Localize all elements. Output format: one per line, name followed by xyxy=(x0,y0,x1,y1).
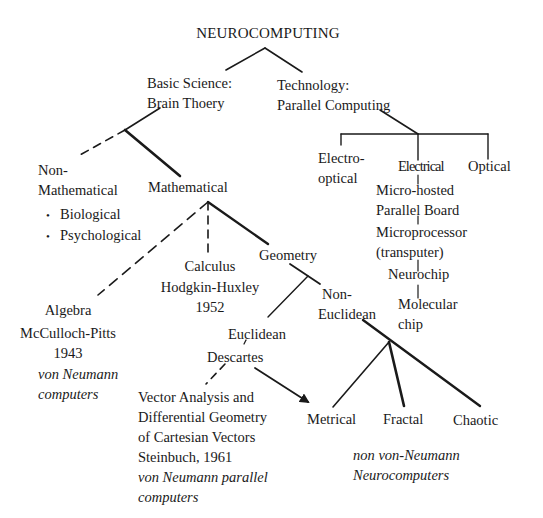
calculus-line1: Calculus xyxy=(161,256,259,276)
science-subtitle: Brain Thoery xyxy=(147,93,232,113)
algebra-note-line2: computers xyxy=(38,384,118,404)
non-euclidean-node: Non- Euclidean xyxy=(318,284,376,324)
neurocomputers-note: non von-Neumann Neurocomputers xyxy=(353,445,460,485)
bullet-psychological: Psychological xyxy=(46,225,141,246)
algebra-line1: Algebra xyxy=(20,300,116,320)
algebra-node: Algebra McCulloch-Pitts 1943 xyxy=(20,300,116,363)
calculus-node: Calculus Hodgkin-Huxley 1952 xyxy=(161,256,259,317)
root-node: NEUROCOMPUTING xyxy=(196,23,340,43)
neuro-note-line2: Neurocomputers xyxy=(353,465,460,485)
algebra-line3: 1943 xyxy=(20,343,116,363)
microprocessor-line1: Microprocessor xyxy=(376,222,467,242)
chaotic-node: Chaotic xyxy=(453,410,498,430)
edge-geometry-stem xyxy=(290,264,320,284)
edge-science-math xyxy=(125,130,180,176)
edge-root-technology xyxy=(265,48,302,72)
edge-noneuclidean-metrical xyxy=(333,342,389,407)
bullet-biological: Biological xyxy=(46,204,120,225)
non-mathematical-line2: Mathematical xyxy=(38,180,118,200)
vector-line4: Steinbuch, 1961 xyxy=(138,447,268,467)
vector-line2: Differential Geometry xyxy=(138,407,268,427)
molecular-line2: chip xyxy=(398,314,458,334)
electrical-node: Electrical xyxy=(398,156,444,176)
edge-math-geometry xyxy=(208,202,268,244)
edge-root-science xyxy=(226,48,265,70)
mathematical-node: Mathematical xyxy=(148,177,228,197)
calculus-line3: 1952 xyxy=(161,297,259,317)
non-euclidean-line2: Euclidean xyxy=(318,304,376,324)
micro-hosted-line1: Micro-hosted xyxy=(376,180,459,200)
fractal-node: Fractal xyxy=(383,409,423,429)
non-mathematical-line1: Non- xyxy=(38,160,118,180)
science-node: Basic Science: Brain Thoery xyxy=(147,73,232,113)
molecular-chip-node: Molecular chip xyxy=(398,294,458,334)
micro-hosted-line2: Parallel Board xyxy=(376,200,459,220)
molecular-line1: Molecular xyxy=(398,294,458,314)
algebra-note: von Neumann computers xyxy=(38,364,118,404)
optical-node: Optical xyxy=(468,156,511,176)
calculus-line2: Hodgkin-Huxley xyxy=(161,277,259,297)
bullet-text: Biological xyxy=(60,206,120,222)
vector-note-line1: von Neumann parallel xyxy=(138,467,268,487)
technology-subtitle: Parallel Computing xyxy=(277,95,390,115)
vector-note-line2: computers xyxy=(138,487,268,507)
edge-science-nonmath xyxy=(78,130,125,156)
electro-optical-line2: optical xyxy=(318,168,365,188)
euclidean-node: Euclidean xyxy=(228,324,286,344)
micro-hosted-board-node: Micro-hosted Parallel Board xyxy=(376,180,459,220)
technology-node: Technology: Parallel Computing xyxy=(277,75,390,115)
algebra-note-line1: von Neumann xyxy=(38,364,118,384)
neuro-note-line1: non von-Neumann xyxy=(353,445,460,465)
bullet-text: Psychological xyxy=(60,227,141,243)
vector-line3: of Cartesian Vectors xyxy=(138,427,268,447)
descartes-node: Descartes xyxy=(207,347,263,367)
geometry-node: Geometry xyxy=(259,245,317,265)
vector-line1: Vector Analysis and xyxy=(138,387,268,407)
science-title: Basic Science: xyxy=(147,73,232,93)
vector-analysis-node: Vector Analysis and Differential Geometr… xyxy=(138,387,268,507)
neurocomputing-diagram: NEUROCOMPUTING Basic Science: Brain Thoe… xyxy=(0,0,543,518)
microprocessor-node: Microprocessor (transputer) xyxy=(376,222,467,262)
edge-descartes-vector xyxy=(206,364,225,384)
microprocessor-line2: (transputer) xyxy=(376,242,467,262)
technology-title: Technology: xyxy=(277,75,390,95)
electro-optical-line1: Electro- xyxy=(318,148,365,168)
edge-geometry-euclid xyxy=(268,276,308,317)
neurochip-node: Neurochip xyxy=(388,264,449,284)
non-euclidean-line1: Non- xyxy=(318,284,376,304)
non-mathematical-node: Non- Mathematical xyxy=(38,160,118,200)
algebra-line2: McCulloch-Pitts xyxy=(20,323,116,343)
edge-noneuclidean-fractal xyxy=(389,342,404,406)
electro-optical-node: Electro- optical xyxy=(318,148,365,188)
metrical-node: Metrical xyxy=(307,409,356,429)
